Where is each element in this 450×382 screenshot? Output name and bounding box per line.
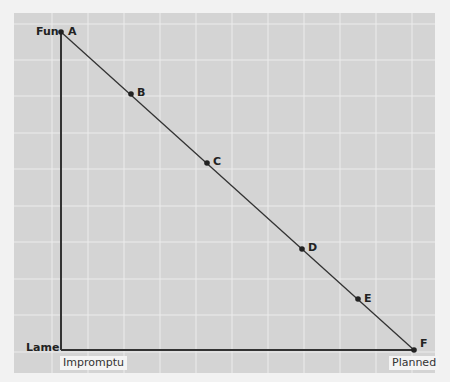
point-label-f: F	[420, 338, 428, 350]
point-f	[411, 347, 417, 353]
point-c	[204, 160, 210, 166]
point-label-b: B	[137, 87, 145, 99]
point-label-e: E	[364, 293, 372, 305]
y-max-label: Fun	[36, 26, 59, 38]
point-b	[128, 91, 134, 97]
y-min-label: Lame	[26, 342, 59, 354]
point-label-a: A	[68, 26, 77, 38]
point-d	[299, 246, 305, 252]
x-max-label: Planned	[389, 356, 439, 370]
point-label-d: D	[308, 242, 317, 254]
x-min-label: Impromptu	[60, 356, 127, 370]
point-label-c: C	[213, 156, 221, 168]
gridlines	[14, 13, 435, 373]
diagonal-line	[61, 32, 414, 350]
point-e	[355, 296, 361, 302]
point-a	[58, 29, 64, 35]
chart-svg	[0, 0, 450, 382]
